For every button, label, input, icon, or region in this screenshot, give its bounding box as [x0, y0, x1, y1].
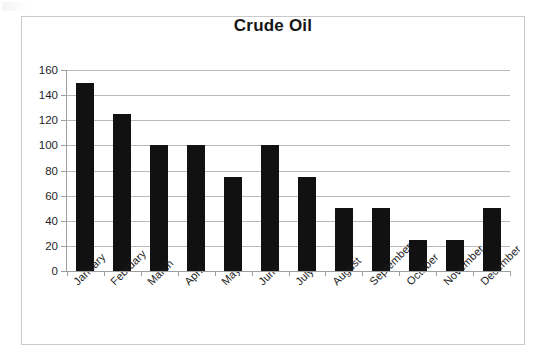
x-tick-mark [362, 271, 363, 276]
x-tick-mark [436, 271, 437, 276]
y-axis-tick-label: 100 [24, 139, 58, 151]
x-tick-mark [67, 271, 68, 276]
gridline [67, 95, 510, 96]
gridline [67, 120, 510, 121]
x-tick-mark [252, 271, 253, 276]
x-tick-mark [215, 271, 216, 276]
gridline [67, 246, 510, 247]
y-axis-tick-label: 0 [24, 265, 58, 277]
y-tick-mark [61, 196, 67, 197]
x-tick-mark [289, 271, 290, 276]
y-tick-mark [61, 120, 67, 121]
bar-july[interactable] [298, 177, 316, 271]
bar-june[interactable] [261, 145, 279, 271]
y-axis-tick-label: 160 [24, 64, 58, 76]
bar-march[interactable] [150, 145, 168, 271]
bar-october[interactable] [409, 240, 427, 271]
y-tick-mark [61, 246, 67, 247]
gridline [67, 196, 510, 197]
bar-august[interactable] [335, 208, 353, 271]
y-axis-tick-label: 40 [24, 215, 58, 227]
x-tick-mark [104, 271, 105, 276]
gridline [67, 70, 510, 71]
x-tick-mark [399, 271, 400, 276]
gridline [67, 171, 510, 172]
bar-may[interactable] [224, 177, 242, 271]
y-axis-tick-label: 120 [24, 114, 58, 126]
y-tick-mark [61, 145, 67, 146]
bar-september[interactable] [372, 208, 390, 271]
y-tick-mark [61, 70, 67, 71]
chart-title: Crude Oil [0, 16, 546, 36]
x-tick-mark [325, 271, 326, 276]
plot-area [67, 70, 510, 271]
gridline [67, 221, 510, 222]
x-tick-mark [141, 271, 142, 276]
bar-january[interactable] [76, 83, 94, 271]
bar-november[interactable] [446, 240, 464, 271]
bar-december[interactable] [483, 208, 501, 271]
x-tick-mark [178, 271, 179, 276]
gridline [67, 145, 510, 146]
y-axis-labels: 160140120100806040200 [22, 0, 58, 361]
y-axis-tick-label: 60 [24, 190, 58, 202]
y-tick-mark [61, 95, 67, 96]
x-tick-mark [510, 271, 511, 276]
y-axis-tick-label: 20 [24, 240, 58, 252]
bar-april[interactable] [187, 145, 205, 271]
x-tick-mark [473, 271, 474, 276]
y-tick-mark [61, 171, 67, 172]
y-axis-tick-label: 140 [24, 89, 58, 101]
bar-february[interactable] [113, 114, 131, 271]
y-axis-tick-label: 80 [24, 165, 58, 177]
y-tick-mark [61, 221, 67, 222]
